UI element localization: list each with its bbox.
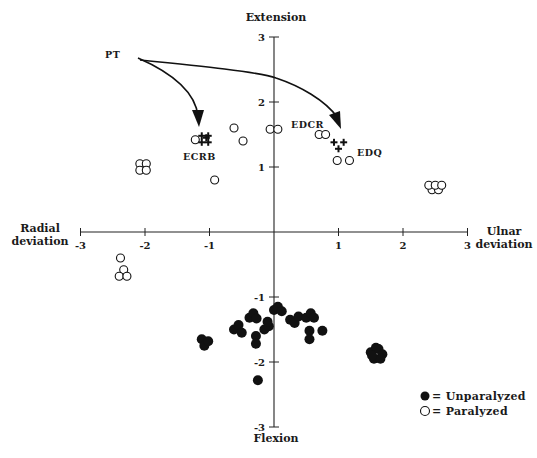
axis-title-extension: Extension <box>246 11 307 24</box>
legend-open-circle-icon <box>421 407 430 416</box>
open-circle-marker <box>345 157 353 165</box>
x-tick-label: 3 <box>464 240 471 251</box>
legend: = Unparalyzed = Paralyzed <box>421 390 526 418</box>
open-circle-marker <box>274 125 282 133</box>
filled-circle-marker <box>277 306 287 316</box>
annotation-pt: PT <box>105 49 120 60</box>
open-circle-marker <box>333 157 341 165</box>
axis-title-flexion: Flexion <box>253 432 298 445</box>
open-circle-marker <box>322 131 330 139</box>
filled-circle-marker <box>251 339 261 349</box>
annotation-edcr: EDCR <box>291 119 324 130</box>
x-tick-label: -3 <box>75 240 86 251</box>
filled-circle-marker <box>367 351 377 361</box>
arrowhead-icon <box>329 111 341 129</box>
open-circle-marker <box>211 176 219 184</box>
open-circle-marker <box>266 125 274 133</box>
filled-circle-marker <box>252 313 262 323</box>
y-tick-label: -1 <box>254 292 265 303</box>
open-circle-marker <box>123 272 131 280</box>
filled-circle-marker <box>203 336 213 346</box>
annotation-ecrb: ECRB <box>183 151 216 162</box>
open-circle-marker <box>115 272 123 280</box>
x-tick-label: 1 <box>335 240 342 251</box>
open-circle-marker <box>239 137 247 145</box>
y-tick-label: -2 <box>254 357 265 368</box>
legend-label-unparalyzed: = Unparalyzed <box>432 390 526 403</box>
axes: -3-2-1123321-1-2-3 <box>75 32 471 433</box>
open-circle-marker <box>116 254 124 262</box>
y-tick-label: 1 <box>258 162 265 173</box>
filled-circle-marker <box>317 326 327 336</box>
arrow-pt-to-ecrb <box>138 58 198 116</box>
axis-title-ulnar-line1: Ulnar <box>487 225 522 238</box>
axis-title-radial-line2: deviation <box>12 235 69 248</box>
x-tick-label: -1 <box>204 240 215 251</box>
x-tick-label: 2 <box>400 240 407 251</box>
series-paralyzed <box>115 124 446 280</box>
filled-circle-marker <box>253 375 263 385</box>
x-tick-label: -2 <box>139 240 150 251</box>
data-points <box>115 124 446 385</box>
annotation-edq: EDQ <box>357 147 382 158</box>
arrow-pt-to-edq <box>140 60 338 118</box>
open-circle-marker <box>142 166 150 174</box>
filled-circle-marker <box>237 328 247 338</box>
open-circle-marker <box>438 181 446 189</box>
scatter-plot: -3-2-1123321-1-2-3 Extension Flexion Rad… <box>0 0 537 458</box>
arrowhead-icon <box>192 110 204 127</box>
axis-title-ulnar-line2: deviation <box>476 238 533 251</box>
series-unparalyzed <box>197 302 388 385</box>
filled-circle-marker <box>309 313 319 323</box>
filled-circle-marker <box>263 317 273 327</box>
y-tick-label: 2 <box>258 97 265 108</box>
y-tick-label: 3 <box>258 32 265 43</box>
axis-title-radial-line1: Radial <box>20 222 60 235</box>
legend-label-paralyzed: = Paralyzed <box>432 405 508 418</box>
filled-circle-marker <box>304 334 314 344</box>
open-circle-marker <box>230 124 238 132</box>
legend-filled-circle-icon <box>421 392 430 401</box>
open-circle-marker <box>191 136 199 144</box>
